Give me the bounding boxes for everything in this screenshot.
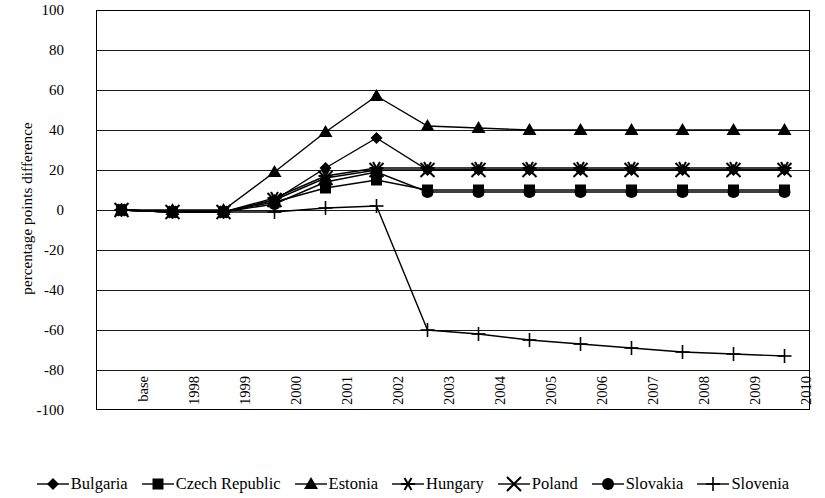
x-axis-tick-label: 2009 xyxy=(726,390,741,450)
y-axis-tick-label: 20 xyxy=(6,163,64,178)
legend-item-hungary[interactable]: Hungary xyxy=(391,475,484,493)
legend-label: Hungary xyxy=(426,476,484,493)
plus-marker-icon xyxy=(696,475,730,493)
y-axis-tick-label: 100 xyxy=(6,3,64,18)
y-axis-tick-label: 40 xyxy=(6,123,64,138)
x-axis-tick-label: 2002 xyxy=(369,390,384,450)
x-axis-tick-label: 2005 xyxy=(522,390,537,450)
legend-item-bulgaria[interactable]: Bulgaria xyxy=(36,475,128,493)
legend-item-slovakia[interactable]: Slovakia xyxy=(591,475,684,493)
x-axis-tick-label: 1998 xyxy=(165,390,180,450)
asterisk-marker-icon xyxy=(391,475,425,493)
x-axis-tick-label: 2006 xyxy=(573,390,588,450)
legend-label: Bulgaria xyxy=(71,476,128,493)
y-axis-tick-label: -20 xyxy=(6,243,64,258)
y-axis-tick-label: 80 xyxy=(6,43,64,58)
y-axis-tick-label: -80 xyxy=(6,363,64,378)
chart-legend: BulgariaCzech RepublicEstoniaHungaryPola… xyxy=(0,470,825,498)
x-axis-tick-labels: base199819992000200120022003200420052006… xyxy=(96,412,810,470)
y-axis-tick-label: 60 xyxy=(6,83,64,98)
x-axis-tick-label: 2001 xyxy=(318,390,333,450)
y-axis-tick-label: -100 xyxy=(6,403,64,418)
legend-item-czech-republic[interactable]: Czech Republic xyxy=(141,475,281,493)
legend-item-slovenia[interactable]: Slovenia xyxy=(696,475,789,493)
legend-label: Estonia xyxy=(329,476,379,493)
square-marker-icon xyxy=(141,475,175,493)
plot-svg xyxy=(96,10,810,410)
x-axis-tick-label: 2000 xyxy=(267,390,282,450)
legend-item-poland[interactable]: Poland xyxy=(497,475,578,493)
y-axis-tick-labels: 100806040200-20-40-60-80-100 xyxy=(6,0,64,420)
legend-label: Czech Republic xyxy=(176,476,281,493)
legend-label: Slovenia xyxy=(731,476,789,493)
diamond-marker-icon xyxy=(36,475,70,493)
line-chart: percentage points difference 10080604020… xyxy=(0,0,825,498)
legend-label: Poland xyxy=(532,476,578,493)
y-axis-tick-label: 0 xyxy=(6,203,64,218)
legend-item-estonia[interactable]: Estonia xyxy=(294,475,379,493)
x-axis-tick-label: 2004 xyxy=(471,390,486,450)
series-estonia xyxy=(115,89,792,215)
y-axis-tick-label: -60 xyxy=(6,323,64,338)
y-axis-tick-label: -40 xyxy=(6,283,64,298)
x-axis-tick-label: 2010 xyxy=(777,390,792,450)
legend-label: Slovakia xyxy=(626,476,684,493)
series-slovenia xyxy=(115,199,792,363)
x-axis-tick-label: 2008 xyxy=(675,390,690,450)
triangle-marker-icon xyxy=(294,475,328,493)
circle-marker-icon xyxy=(591,475,625,493)
x-axis-tick-label: base xyxy=(114,390,129,450)
x-axis-tick-label: 2007 xyxy=(624,390,639,450)
plot-area xyxy=(96,10,810,410)
x-axis-tick-label: 2003 xyxy=(420,390,435,450)
x-axis-tick-label: 1999 xyxy=(216,390,231,450)
star-marker-icon xyxy=(497,475,531,493)
